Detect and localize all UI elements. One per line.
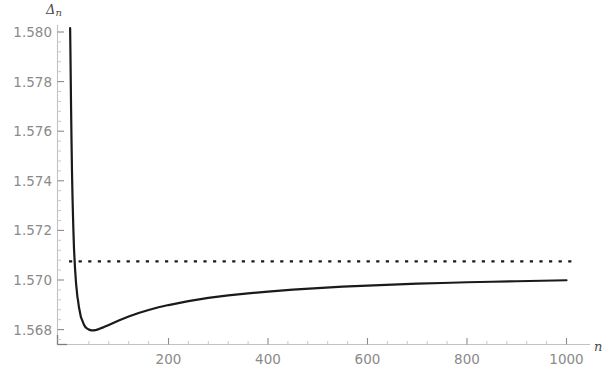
y-tick-label: 1.570 [13,272,52,288]
y-tick-label: 1.572 [13,222,52,238]
y-axis-label-subscript: n [55,7,61,18]
x-axis-tick-labels: 2004006008001000 [156,351,584,367]
x-tick-label: 600 [355,351,381,367]
y-tick-label: 1.568 [13,322,52,338]
y-tick-label: 1.576 [13,123,52,139]
y-tick-label: 1.580 [13,24,52,40]
plot-figure: Δn n 1.5681.5701.5721.5741.5761.5781.580… [0,0,610,376]
data-curve [70,28,566,330]
x-tick-label: 1000 [549,351,583,367]
y-tick-label: 1.574 [13,173,52,189]
x-tick-label: 400 [255,351,281,367]
x-tick-label: 800 [454,351,480,367]
y-axis-major-ticks [58,32,65,330]
y-axis-label: Δn [46,2,62,18]
y-axis-tick-labels: 1.5681.5701.5721.5741.5761.5781.580 [13,24,52,338]
plot-canvas: 1.5681.5701.5721.5741.5761.5781.580 2004… [0,0,610,376]
x-tick-label: 200 [156,351,182,367]
x-axis-label: n [594,339,602,354]
y-tick-label: 1.578 [13,74,52,90]
y-axis-label-symbol: Δ [46,2,55,17]
